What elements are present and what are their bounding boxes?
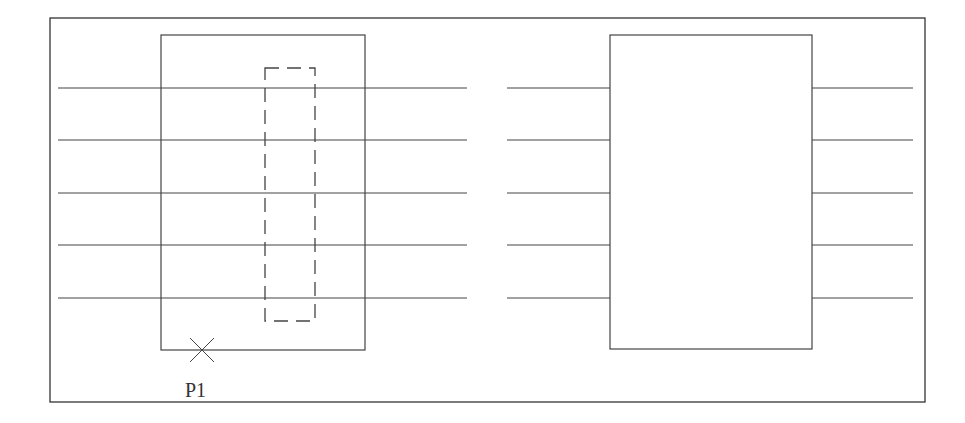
point-label: P1 bbox=[185, 379, 206, 401]
dashed-selection-window bbox=[265, 68, 315, 321]
right-rectangle bbox=[610, 35, 812, 349]
left-figure: P1 bbox=[58, 35, 467, 401]
diagram-canvas: P1 bbox=[0, 0, 965, 423]
right-figure bbox=[507, 35, 913, 349]
left-horizontal-lines bbox=[58, 88, 467, 298]
pick-point-p1: P1 bbox=[185, 338, 214, 401]
